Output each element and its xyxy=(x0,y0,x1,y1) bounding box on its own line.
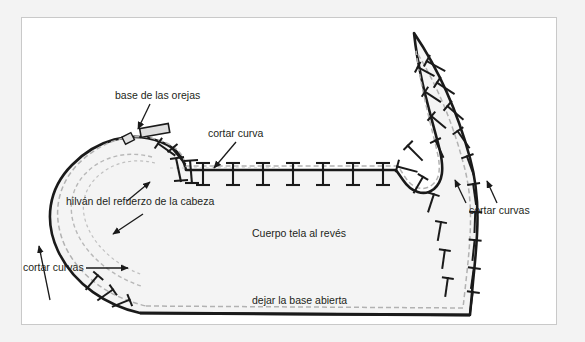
label-cuerpo-tela-al-reves: Cuerpo tela al revés xyxy=(252,228,346,240)
label-cortar-curvas-right: cortar curvas xyxy=(469,205,530,217)
arrow-ears xyxy=(138,104,150,129)
label-cortar-curvas-left: cortar curvas xyxy=(23,262,84,274)
label-cortar-curva: cortar curva xyxy=(208,128,263,140)
notch-marks-neck xyxy=(395,140,428,178)
sewing-pattern-diagram xyxy=(0,0,585,342)
base-open-line xyxy=(140,313,470,315)
label-hilvan-refuerzo-cabeza: hilván del refuerzo de la cabeza xyxy=(66,196,214,208)
label-base-de-las-orejas: base de las orejas xyxy=(115,90,200,102)
page-background: base de las orejas cortar curva hilván d… xyxy=(0,0,585,342)
label-dejar-la-base-abierta: dejar la base abierta xyxy=(252,295,347,307)
arrow-cortar-curvas-right-b xyxy=(487,181,497,203)
